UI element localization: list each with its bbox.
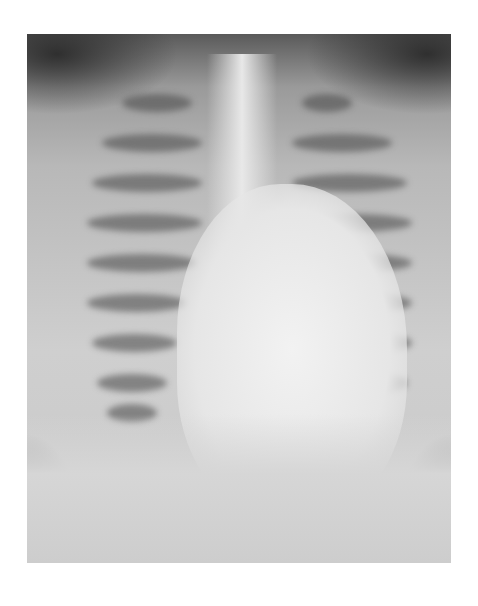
abdomen-shadow [27,414,451,563]
chest-xray-image [27,34,451,563]
